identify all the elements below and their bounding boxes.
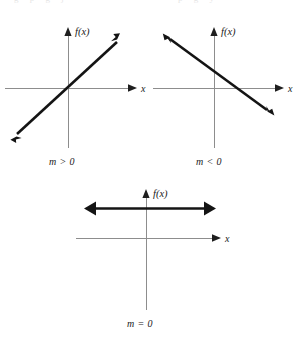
panel-positive-slope: f(x) x m > 0 (0, 8, 152, 170)
x-axis-arrowhead-icon (212, 234, 221, 242)
x-axis-arrowhead-icon (275, 84, 284, 92)
negative-slope-graph: f(x) x m < 0 (151, 8, 303, 170)
panel-zero-slope: f(x) x m = 0 (72, 176, 234, 340)
slope-figure: g p g j p g y f(x) x m > 0 (0, 0, 303, 340)
x-axis-label: x (140, 83, 146, 94)
x-axis-label: x (224, 233, 230, 244)
y-axis-arrowhead-icon (210, 27, 217, 36)
y-axis-arrowhead-icon (64, 27, 71, 36)
positive-slope-graph: f(x) x m > 0 (0, 8, 152, 170)
cropped-text-bleed: g p g j p g y (0, 0, 303, 6)
function-line (170, 39, 267, 110)
function-arrowhead-upper-left-icon (163, 34, 171, 44)
case-label-positive: m > 0 (49, 156, 75, 167)
y-axis-label: f(x) (153, 188, 168, 200)
function-arrowhead-upper-right-icon (111, 33, 120, 41)
bleed-fragment-right: p g y (178, 0, 214, 3)
function-arrowhead-lower-left-icon (10, 136, 21, 143)
function-arrowhead-lower-right-icon (266, 106, 274, 116)
bleed-fragment-left: g p g j (14, 0, 64, 3)
x-axis-arrowhead-icon (128, 84, 137, 92)
zero-slope-graph: f(x) x m = 0 (72, 176, 234, 340)
x-axis-label: x (287, 83, 293, 94)
y-axis-arrowhead-icon (142, 189, 149, 198)
function-arrowhead-left-icon (84, 202, 96, 216)
y-axis-label: f(x) (221, 26, 236, 38)
panel-negative-slope: f(x) x m < 0 (151, 8, 303, 170)
y-axis-label: f(x) (75, 26, 90, 38)
function-arrowhead-right-icon (204, 202, 216, 216)
case-label-negative: m < 0 (196, 156, 222, 167)
case-label-zero: m = 0 (127, 318, 153, 329)
